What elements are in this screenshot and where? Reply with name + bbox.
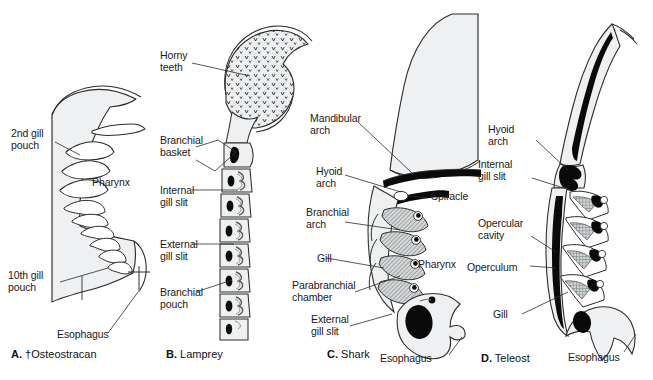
label-pharynx-c: Pharynx	[418, 258, 456, 270]
panel-c-letter: C.	[327, 348, 338, 360]
panel-c-caption: C. Shark	[327, 348, 370, 360]
panel-c-artwork	[326, 14, 481, 359]
label-hyoid-arch-c: Hyoid arch	[316, 165, 342, 189]
label-external-gill-slit-b: External gill slit	[160, 238, 198, 262]
label-operculum: Operculum	[467, 261, 517, 273]
panel-d-name: Teleost	[492, 352, 530, 364]
label-esophagus-a: Esophagus	[57, 328, 109, 340]
label-esophagus-c: Esophagus	[380, 352, 432, 364]
label-opercular-cavity: Opercular cavity	[478, 217, 523, 241]
panel-a-artwork	[52, 86, 150, 333]
label-tenth-gill-pouch: 10th gill pouch	[8, 269, 43, 293]
comparative-gill-anatomy-figure: 2nd gill pouch Pharynx 10th gill pouch E…	[0, 0, 653, 380]
panel-a-letter: A.	[11, 348, 22, 360]
panel-b-caption: B. Lamprey	[166, 348, 223, 360]
label-esophagus-d: Esophagus	[568, 351, 620, 363]
panel-d-artwork	[522, 24, 637, 360]
panel-b-name: Lamprey	[177, 348, 223, 360]
panel-b-letter: B.	[166, 348, 177, 360]
panel-d-letter: D.	[481, 352, 492, 364]
label-second-gill-pouch: 2nd gill pouch	[11, 127, 43, 151]
label-horny-teeth: Horny teeth	[160, 49, 188, 73]
panel-d-caption: D. Teleost	[481, 352, 530, 364]
label-pharynx-a: Pharynx	[92, 176, 130, 188]
label-spiracle: Spiracle	[431, 190, 468, 202]
label-internal-gill-slit-d: Internal gill slit	[478, 158, 512, 182]
label-gill-c: Gill	[317, 252, 332, 264]
panel-a-caption: A. †Osteostracan	[11, 348, 97, 360]
label-branchial-pouch: Branchial pouch	[160, 286, 203, 310]
panel-c-name: Shark	[338, 348, 370, 360]
label-branchial-arch-c: Branchial arch	[306, 206, 349, 230]
label-hyoid-arch-d: Hyoid arch	[488, 123, 514, 147]
label-parabranchial-chamber: Parabranchial chamber	[292, 279, 356, 303]
label-gill-d: Gill	[493, 308, 508, 320]
panel-a-name: †Osteostracan	[22, 348, 97, 360]
label-branchial-basket: Branchial basket	[160, 134, 203, 158]
label-external-gill-slit-c: External gill slit	[311, 313, 349, 337]
label-internal-gill-slit-b: Internal gill slit	[160, 184, 194, 208]
label-mandibular-arch: Mandibular arch	[310, 112, 361, 136]
